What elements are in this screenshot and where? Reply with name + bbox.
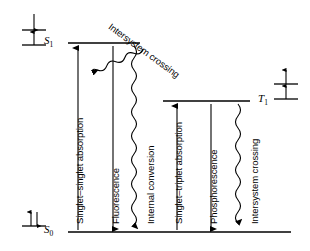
transition-label-singlet-singlet-absorption: Singlet–singlet absorption (74, 118, 85, 224)
arrow-intersystem-crossing-t1-s0 (236, 104, 241, 223)
transition-label-internal-conversion: Internal conversion (145, 146, 156, 224)
arrow-internal-conversion (132, 46, 137, 225)
spin-configuration-triplet (274, 70, 298, 99)
transition-label-phosphorescence: Phosphorescence (208, 149, 219, 224)
state-label-t1: T1 (258, 92, 268, 107)
state-label-s1: S1 (44, 34, 53, 49)
jablonski-diagram-figure: S1 T1 S0 Singlet–singlet absorption Fluo… (0, 0, 310, 251)
transition-label-intersystem-crossing-t1-s0: Intersystem crossing (249, 139, 260, 224)
transition-label-fluorescence: Fluorescence (110, 168, 121, 224)
spin-configuration-ground-singlet (22, 212, 46, 226)
state-label-s0: S0 (44, 223, 53, 238)
spin-configuration-excited-singlet (22, 14, 46, 45)
transition-label-singlet-triplet-absorption: Singlet–triplet absorption (173, 122, 184, 224)
